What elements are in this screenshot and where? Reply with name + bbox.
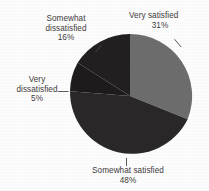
pie-label-somewhat-dissatisfied-text-line2: dissatisfied xyxy=(30,24,102,34)
pie-label-very-dissatisfied-text-line1: Very xyxy=(6,75,68,85)
pie-label-very-satisfied-value: 31% xyxy=(129,21,191,31)
pie-label-very-dissatisfied-value: 5% xyxy=(6,94,68,104)
pie-label-somewhat-dissatisfied-text-line1: Somewhat xyxy=(30,14,102,24)
leader-line-very-satisfied xyxy=(175,39,182,47)
pie-label-somewhat-satisfied-value: 48% xyxy=(68,176,188,186)
pie-chart-figure: Very satisfied 31% Somewhat dissatisfied… xyxy=(0,0,209,191)
pie-label-somewhat-satisfied: Somewhat satisfied 48% xyxy=(68,166,188,185)
pie-label-somewhat-dissatisfied-value: 16% xyxy=(30,33,102,43)
pie-label-somewhat-satisfied-text: Somewhat satisfied xyxy=(68,166,188,176)
pie-label-very-dissatisfied: Very dissatisfied 5% xyxy=(6,75,68,104)
pie-label-somewhat-dissatisfied: Somewhat dissatisfied 16% xyxy=(30,14,102,43)
pie-label-very-dissatisfied-text-line2: dissatisfied xyxy=(6,85,68,95)
pie-label-very-satisfied-text: Very satisfied xyxy=(129,11,207,21)
pie-label-very-satisfied: Very satisfied 31% xyxy=(129,11,207,30)
